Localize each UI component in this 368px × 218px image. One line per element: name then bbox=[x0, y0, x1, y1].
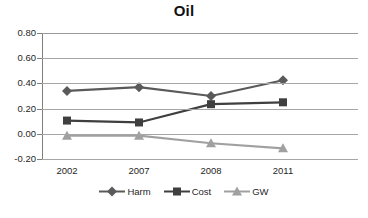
x-axis-tick-label: 2007 bbox=[109, 165, 169, 176]
series-line-cost bbox=[67, 102, 283, 122]
data-point-marker bbox=[62, 86, 72, 96]
y-axis-tick bbox=[37, 109, 42, 110]
data-point-marker bbox=[173, 188, 181, 196]
legend-swatch-triangle-icon bbox=[224, 186, 250, 197]
y-axis-tick bbox=[37, 58, 42, 59]
plot-area bbox=[42, 33, 358, 159]
y-axis-tick-label: 0.20 bbox=[0, 104, 36, 114]
series-line-gw bbox=[67, 136, 283, 149]
legend-swatch-square-icon bbox=[164, 186, 190, 197]
y-axis-tick-label: 0.80 bbox=[0, 28, 36, 38]
y-axis-tick bbox=[37, 134, 42, 135]
legend-label: Cost bbox=[192, 186, 212, 197]
chart-container: Oil 0.800.600.400.200.00-0.20 2002200720… bbox=[0, 0, 368, 218]
y-axis-tick bbox=[37, 159, 42, 160]
chart-title: Oil bbox=[0, 2, 368, 19]
y-axis-tick-label: 0.60 bbox=[0, 53, 36, 63]
x-axis-tick-label: 2008 bbox=[181, 165, 241, 176]
data-point-marker bbox=[207, 100, 215, 108]
data-point-marker bbox=[107, 187, 117, 197]
gridline bbox=[42, 134, 358, 135]
chart-legend: HarmCostGW bbox=[0, 186, 368, 197]
legend-label: GW bbox=[252, 186, 268, 197]
legend-item-cost[interactable]: Cost bbox=[164, 186, 212, 197]
data-point-marker bbox=[206, 91, 216, 101]
y-axis-tick-label: 0.00 bbox=[0, 129, 36, 139]
gridline bbox=[42, 33, 358, 34]
legend-item-harm[interactable]: Harm bbox=[99, 186, 150, 197]
legend-swatch-diamond-icon bbox=[99, 186, 125, 197]
gridline bbox=[42, 83, 358, 84]
y-axis-tick-label: 0.40 bbox=[0, 78, 36, 88]
series-plot bbox=[42, 33, 358, 159]
gridline bbox=[42, 159, 358, 160]
y-axis-tick bbox=[37, 83, 42, 84]
data-point-marker bbox=[279, 98, 287, 106]
gridline bbox=[42, 58, 358, 59]
data-point-marker bbox=[63, 117, 71, 125]
legend-item-gw[interactable]: GW bbox=[224, 186, 268, 197]
legend-label: Harm bbox=[127, 186, 150, 197]
x-axis-tick-label: 2002 bbox=[37, 165, 97, 176]
y-axis-tick bbox=[37, 33, 42, 34]
gridline bbox=[42, 109, 358, 110]
x-axis-tick-label: 2011 bbox=[253, 165, 313, 176]
y-axis-tick-label: -0.20 bbox=[0, 154, 36, 164]
data-point-marker bbox=[135, 118, 143, 126]
